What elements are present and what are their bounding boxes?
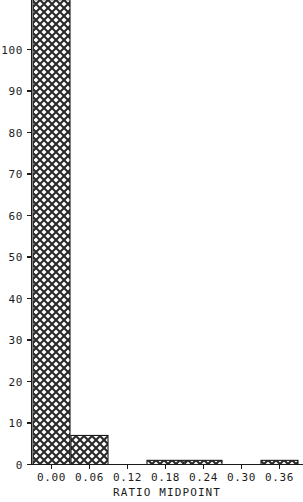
- y-tick-label: 10: [9, 417, 23, 430]
- x-tick-label: 0.06: [75, 471, 104, 484]
- y-tick-label: 20: [9, 376, 23, 389]
- histogram-bar: [71, 435, 108, 464]
- y-tick-label: 40: [9, 293, 23, 306]
- x-axis-title: RATIO MIDPOINT: [113, 486, 221, 499]
- y-axis-ticks: 0102030405060708090100: [1, 44, 31, 472]
- histogram-bar: [261, 460, 298, 464]
- plot-area: 0102030405060708090100 0.000.060.120.180…: [0, 0, 303, 502]
- y-tick-label: 0: [16, 459, 23, 472]
- histogram-bar: [33, 0, 70, 464]
- x-tick-label: 0.18: [151, 471, 180, 484]
- y-tick-label: 100: [1, 44, 23, 57]
- y-tick-label: 70: [9, 168, 23, 181]
- x-tick-label: 0.36: [265, 471, 294, 484]
- x-tick-label: 0.00: [37, 471, 66, 484]
- histogram-chart: 0102030405060708090100 0.000.060.120.180…: [0, 0, 303, 502]
- x-tick-label: 0.24: [189, 471, 218, 484]
- y-tick-label: 30: [9, 334, 23, 347]
- y-tick-label: 60: [9, 210, 23, 223]
- x-tick-label: 0.30: [227, 471, 256, 484]
- y-tick-label: 90: [9, 85, 23, 98]
- y-tick-label: 80: [9, 127, 23, 140]
- x-tick-label: 0.12: [113, 471, 142, 484]
- histogram-bar: [147, 460, 184, 464]
- y-tick-label: 50: [9, 251, 23, 264]
- x-axis-ticks: 0.000.060.120.180.240.300.36: [37, 465, 294, 484]
- histogram-bar: [185, 460, 222, 464]
- bars-group: [33, 0, 298, 464]
